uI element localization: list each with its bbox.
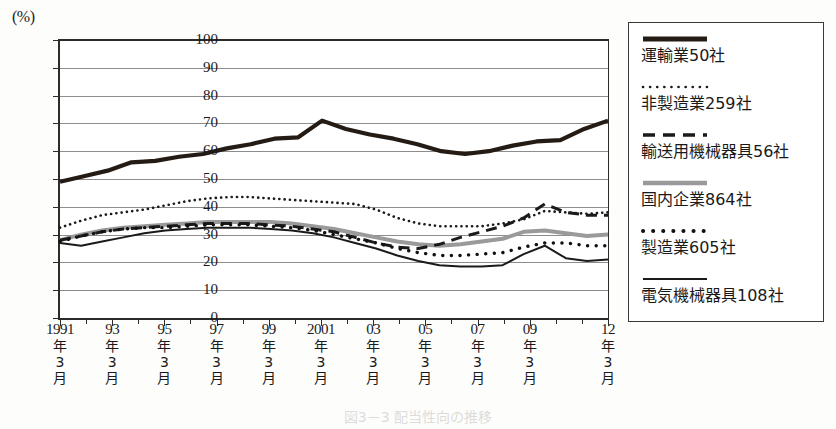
y-axis-unit-label: (%)	[12, 8, 34, 26]
legend-item[interactable]: 国内企業864社	[629, 177, 823, 225]
y-tick-label: 100	[178, 32, 218, 47]
x-tick-label: 93年3月	[90, 322, 134, 385]
x-tick-label: 99年3月	[247, 322, 291, 385]
y-tick-label: 30	[178, 227, 218, 242]
y-tick-label: 40	[178, 199, 218, 214]
x-tick-label: 07年3月	[456, 322, 500, 385]
legend-item[interactable]: 電気機械器具108社	[629, 273, 823, 321]
legend-label: 非製造業259社	[641, 95, 823, 113]
legend-swatch-icon	[641, 81, 705, 93]
legend-label: 運輸業50社	[641, 47, 823, 65]
series-line	[60, 121, 608, 182]
legend-label: 製造業605社	[641, 239, 823, 257]
y-tick-label: 80	[178, 88, 218, 103]
legend-swatch-icon	[641, 33, 705, 45]
axis-right	[608, 39, 609, 319]
x-tick-label: 09年3月	[508, 322, 552, 385]
y-tick-label: 20	[178, 254, 218, 269]
x-tick-label: 2001年3月	[299, 322, 343, 385]
legend-item[interactable]: 非製造業259社	[629, 81, 823, 129]
y-tick-label: 90	[178, 60, 218, 75]
x-tick-label: 97年3月	[195, 322, 239, 385]
legend-swatch-icon	[641, 129, 705, 141]
x-tick-label: 1991年3月	[38, 322, 82, 385]
legend-swatch-icon	[641, 273, 705, 285]
x-tick-label: 95年3月	[142, 322, 186, 385]
series-line	[60, 197, 608, 228]
axis-bottom	[58, 318, 609, 320]
plot-area	[60, 40, 608, 318]
legend-label: 電気機械器具108社	[641, 287, 823, 305]
legend-label: 国内企業864社	[641, 191, 823, 209]
legend-item[interactable]: 運輸業50社	[629, 33, 823, 81]
legend-item[interactable]: 製造業605社	[629, 225, 823, 273]
y-tick-label: 60	[178, 143, 218, 158]
chart-legend: 運輸業50社非製造業259社輸送用機械器具56社国内企業864社製造業605社電…	[628, 22, 824, 322]
data-series-layer	[60, 40, 608, 318]
legend-label: 輸送用機械器具56社	[641, 143, 823, 161]
x-tick-label: 05年3月	[403, 322, 447, 385]
legend-swatch-icon	[641, 177, 705, 189]
y-tick-label: 70	[178, 115, 218, 130]
legend-swatch-icon	[641, 225, 705, 237]
figure-caption: 図3－3 配当性向の推移	[0, 406, 836, 426]
y-tick-label: 10	[178, 282, 218, 297]
x-tick-label: 03年3月	[351, 322, 395, 385]
y-tick-label: 50	[178, 171, 218, 186]
legend-item[interactable]: 輸送用機械器具56社	[629, 129, 823, 177]
chart-page: (%) 0102030405060708090100 1991年3月93年3月9…	[0, 0, 836, 429]
x-tick-label: 12年3月	[586, 322, 630, 385]
